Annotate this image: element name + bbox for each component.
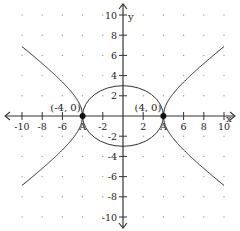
x-tick-label: 2: [140, 121, 146, 132]
grid-dot: [143, 14, 144, 15]
grid-dot: [42, 55, 43, 56]
grid-dot: [82, 156, 83, 157]
grid-dot: [163, 95, 164, 96]
grid-dot: [183, 156, 184, 157]
grid-dot: [143, 35, 144, 36]
grid-dot: [102, 196, 103, 197]
grid-dot: [21, 216, 22, 217]
grid-dot: [163, 136, 164, 137]
grid-dot: [203, 14, 204, 15]
grid-dot: [21, 136, 22, 137]
grid-dot: [183, 196, 184, 197]
x-tick-label: -6: [58, 121, 67, 132]
grid-dot: [143, 95, 144, 96]
grid-dot: [143, 75, 144, 76]
grid-dot: [183, 95, 184, 96]
y-tick-label: 10: [105, 10, 117, 21]
grid-dot: [143, 216, 144, 217]
grid-dot: [143, 196, 144, 197]
grid-dot: [42, 196, 43, 197]
grid-dot: [223, 55, 224, 56]
grid-dot: [42, 216, 43, 217]
grid-dot: [102, 136, 103, 137]
grid-dot: [223, 35, 224, 36]
grid-dot: [143, 136, 144, 137]
hyperbola-lower-right: [163, 116, 224, 185]
grid-dot: [163, 196, 164, 197]
grid-dot: [203, 136, 204, 137]
grid-dot: [102, 35, 103, 36]
grid-dot: [82, 95, 83, 96]
grid-dot: [21, 95, 22, 96]
y-tick-label: 6: [111, 50, 117, 61]
grid-dot: [203, 176, 204, 177]
grid-dot: [163, 75, 164, 76]
grid-dot: [82, 176, 83, 177]
y-tick-label: 8: [111, 30, 117, 41]
grid-dot: [223, 216, 224, 217]
grid-dot: [183, 136, 184, 137]
y-tick-label: 2: [111, 90, 117, 101]
grid-dot: [62, 75, 63, 76]
grid-dot: [163, 156, 164, 157]
x-tick-label: -8: [38, 121, 47, 132]
grid-dot: [223, 196, 224, 197]
vertex-point: [160, 113, 166, 119]
grid-dot: [223, 136, 224, 137]
grid-dot: [82, 196, 83, 197]
grid-dot: [223, 14, 224, 15]
grid-dot: [62, 95, 63, 96]
grid-dot: [42, 14, 43, 15]
hyperbola-upper-right: [163, 47, 224, 116]
y-tick-label: -10: [102, 212, 117, 223]
grid-dot: [102, 75, 103, 76]
grid-dot: [62, 196, 63, 197]
x-axis-label: x: [226, 113, 232, 124]
grid-dot: [82, 216, 83, 217]
grid-dot: [203, 196, 204, 197]
grid-dot: [163, 176, 164, 177]
hyperbola-lower-left: [22, 116, 83, 185]
grid-dot: [82, 55, 83, 56]
x-tick-label: 8: [201, 121, 207, 132]
grid-dot: [82, 136, 83, 137]
y-tick-label: -2: [108, 131, 117, 142]
grid-dot: [102, 156, 103, 157]
x-tick-label: -2: [98, 121, 107, 132]
grid-dot: [183, 176, 184, 177]
grid-dot: [42, 176, 43, 177]
grid-dot: [102, 14, 103, 15]
grid-dot: [21, 176, 22, 177]
grid-dot: [21, 35, 22, 36]
grid-dot: [62, 14, 63, 15]
y-tick-label: -6: [108, 171, 117, 182]
grid-dot: [62, 216, 63, 217]
grid-dot: [203, 35, 204, 36]
grid-dot: [183, 14, 184, 15]
grid-dot: [62, 156, 63, 157]
grid-dot: [62, 176, 63, 177]
grid-dot: [183, 216, 184, 217]
grid-dot: [42, 156, 43, 157]
grid-dot: [183, 75, 184, 76]
grid-dot: [62, 55, 63, 56]
grid-dot: [82, 75, 83, 76]
grid-dot: [21, 14, 22, 15]
grid-dot: [163, 55, 164, 56]
grid-dot: [82, 14, 83, 15]
y-tick-label: -8: [108, 191, 117, 202]
y-tick-label: 4: [111, 70, 117, 81]
grid-dot: [183, 55, 184, 56]
x-tick-label: -10: [14, 121, 29, 132]
point-label-right: (4, 0): [135, 102, 162, 113]
grid-dot: [203, 55, 204, 56]
grid-dot: [223, 95, 224, 96]
grid-dot: [102, 95, 103, 96]
point-label-left: (-4, 0): [50, 102, 80, 113]
grid-dot: [143, 176, 144, 177]
grid-dot: [21, 75, 22, 76]
grid-dot: [42, 136, 43, 137]
grid-dot: [21, 196, 22, 197]
grid-dot: [203, 156, 204, 157]
grid-dot: [163, 14, 164, 15]
